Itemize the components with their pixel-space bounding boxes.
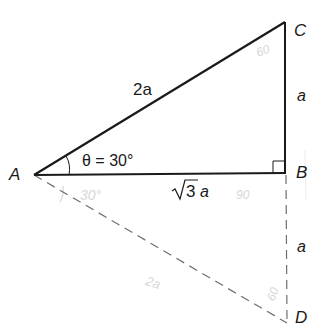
vertex-label-C: C [294, 21, 307, 40]
pencil-bottom-angle: 60 [264, 285, 282, 303]
pencil-right-angle: 90 [236, 188, 250, 202]
pencil-top-angle: 60 [254, 42, 272, 60]
radical-suffix: a [200, 183, 209, 200]
main-triangle [34, 22, 285, 175]
vertex-label-B: B [296, 163, 307, 182]
radical-value: 3 [186, 182, 195, 201]
side-label-AB: 3 a [172, 180, 209, 201]
dashed-line-BD [286, 175, 287, 323]
theta-label: θ = 30° [82, 152, 133, 169]
vertex-label-D: D [295, 308, 307, 327]
side-label-BC: a [297, 87, 306, 104]
side-label-BD: a [297, 238, 306, 255]
right-angle-marker [273, 161, 285, 173]
side-label-AC: 2a [133, 80, 152, 99]
vertex-label-A: A [8, 165, 20, 184]
theta-angle-arc [66, 156, 70, 175]
lower-angle-arc [60, 186, 63, 202]
side-AB [34, 173, 285, 175]
pencil-dashed-side: 2a [143, 273, 163, 292]
side-AC [34, 22, 285, 175]
triangle-diagram: 30° 90 60 60 2a A B C D 2a a a 3 a θ = 3… [0, 0, 324, 333]
pencil-lower-angle: 30° [80, 187, 102, 203]
